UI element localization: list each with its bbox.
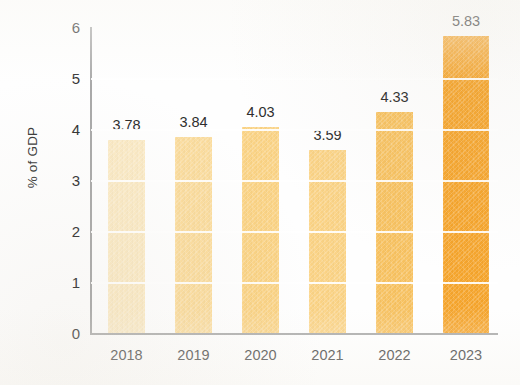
bar-slot-2022: 4.33 2022	[376, 27, 413, 333]
y-tick-label-0: 0	[58, 325, 80, 342]
x-tick-label-2019: 2019	[177, 347, 209, 363]
y-tick-label-5: 5	[58, 70, 80, 87]
bar-value-2023: 5.83	[452, 13, 480, 29]
bar-slot-2018: 3.78 2018	[108, 27, 145, 333]
y-tick-label-6: 6	[58, 19, 80, 36]
bar-slot-2020: 4.03 2020	[242, 27, 279, 333]
bar-2019[interactable]: 3.84	[175, 137, 212, 333]
gridline-3	[91, 180, 498, 182]
x-tick-label-2021: 2021	[311, 347, 343, 363]
bar-value-2022: 4.33	[380, 89, 408, 105]
y-axis-line	[90, 27, 92, 333]
y-tick-label-1: 1	[58, 274, 80, 291]
bar-value-2020: 4.03	[246, 104, 274, 120]
gridline-1	[91, 282, 498, 284]
bar-value-2019: 3.84	[179, 114, 207, 130]
gridline-2	[91, 231, 498, 233]
plot-area: 6 5 4 3 2 1 0 3.78 2018 3.84 2019 4.03 2…	[90, 27, 502, 333]
bar-value-2018: 3.78	[112, 117, 140, 133]
x-tick-label-2022: 2022	[378, 347, 410, 363]
bar-2018[interactable]: 3.78	[108, 140, 145, 333]
y-tick-label-2: 2	[58, 223, 80, 240]
gridline-4	[91, 129, 498, 131]
bar-2020[interactable]: 4.03	[242, 127, 279, 333]
bar-chart-figure: % of GDP 6 5 4 3 2 1 0 3.78 2018 3.84 20…	[0, 0, 520, 385]
x-axis-line	[90, 333, 498, 335]
bar-2023[interactable]: 5.83	[443, 36, 489, 333]
bar-2022[interactable]: 4.33	[376, 112, 413, 333]
gridline-5	[91, 78, 498, 80]
x-tick-label-2018: 2018	[110, 347, 142, 363]
y-tick-label-4: 4	[58, 121, 80, 138]
x-tick-label-2023: 2023	[450, 347, 482, 363]
bar-value-2021: 3.59	[313, 127, 341, 143]
y-tick-label-3: 3	[58, 172, 80, 189]
x-tick-label-2020: 2020	[244, 347, 276, 363]
y-axis-title: % of GDP	[25, 103, 40, 213]
bar-2021[interactable]: 3.59	[309, 150, 346, 333]
bar-slot-2019: 3.84 2019	[175, 27, 212, 333]
bar-slot-2021: 3.59 2021	[309, 27, 346, 333]
bar-slot-2023: 5.83 2023	[443, 27, 489, 333]
